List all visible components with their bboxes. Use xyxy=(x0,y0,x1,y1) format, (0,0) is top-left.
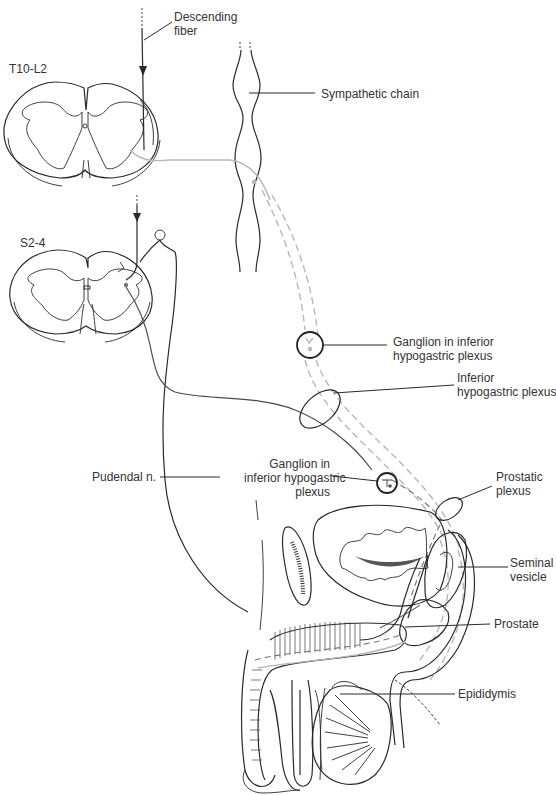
label-descending-fiber: Descending fiber xyxy=(174,10,237,38)
seminal-vesicle xyxy=(425,532,508,607)
label-ganglion-lower: Ganglion in inferior hypogastric plexus xyxy=(244,457,330,499)
label-ganglion-upper: Ganglion in inferior hypogastric plexus xyxy=(393,335,494,363)
label-spinal-level-s2-4: S2-4 xyxy=(20,236,45,250)
spinal-cord-s2-4 xyxy=(10,250,152,342)
inferior-hypogastric-plexus xyxy=(293,383,454,436)
bladder xyxy=(313,505,447,606)
pudendal-nerve xyxy=(140,230,248,612)
arrow-head-icon xyxy=(133,213,141,222)
descending-fiber xyxy=(139,8,172,150)
label-spinal-level-t10-l2: T10-L2 xyxy=(9,62,47,76)
label-inferior-hypogastric-plexus: Inferior hypogastric plexus xyxy=(457,371,556,399)
descending-fiber-sacral xyxy=(118,195,141,280)
prostate xyxy=(400,600,490,646)
ganglion-upper xyxy=(297,332,387,358)
sympathetic-chain xyxy=(233,42,315,272)
penis-shaft xyxy=(243,680,321,793)
label-sympathetic-chain: Sympathetic chain xyxy=(321,87,419,101)
label-prostatic-plexus: Prostatic plexus xyxy=(496,470,543,498)
label-pudendal-nerve: Pudendal n. xyxy=(92,470,156,484)
testis xyxy=(312,682,391,785)
label-epididymis: Epididymis xyxy=(458,687,516,701)
label-seminal-vesicle: Seminal vesicle xyxy=(510,556,553,584)
arrow-head-icon xyxy=(139,66,147,76)
spinal-cord-t10-l2 xyxy=(4,82,160,186)
penis-bulb xyxy=(242,622,407,786)
rectum-section xyxy=(282,527,311,605)
label-prostate: Prostate xyxy=(494,617,539,631)
